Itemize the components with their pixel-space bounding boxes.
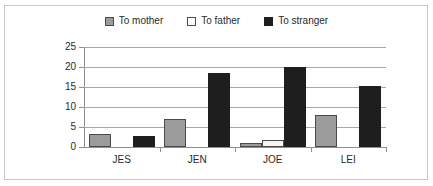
chart-screenshot: To mother To father To stranger 05101520… (0, 0, 433, 186)
bar-joe-to-father (262, 140, 284, 147)
y-tick-label-text: 10 (54, 102, 76, 112)
plot-wrapper: 0510152025 JESJENJOELEI (0, 0, 433, 186)
y-tick-label: 15 (54, 82, 76, 92)
bar-group-bars (160, 47, 236, 147)
x-tick-label-joe: JOE (235, 154, 311, 165)
y-tick-label-text: 25 (54, 42, 76, 52)
bar-jen-to-stranger (208, 73, 230, 147)
y-tick-label-text: 20 (54, 62, 76, 72)
x-tick-mark (160, 147, 161, 152)
bar-group-bars (235, 47, 311, 147)
bar-jen-to-mother (164, 119, 186, 147)
y-tick-label-text: 15 (54, 82, 76, 92)
bar-group-jes (84, 47, 160, 147)
y-tick-label: 10 (54, 102, 76, 112)
x-tick-label-lei: LEI (311, 154, 387, 165)
x-tick-mark (311, 147, 312, 152)
bar-group-bars (84, 47, 160, 147)
bar-group-joe (235, 47, 311, 147)
bar-lei-to-mother (315, 115, 337, 147)
y-tick-label: 5 (54, 122, 76, 132)
bar-group-bars (311, 47, 387, 147)
bar-group-jen (160, 47, 236, 147)
plot-area (84, 47, 386, 147)
bar-jes-to-mother (89, 134, 111, 147)
y-tick-label-text: 0 (54, 142, 76, 152)
bar-lei-to-stranger (359, 86, 381, 147)
x-tick-mark (386, 147, 387, 152)
bar-group-lei (311, 47, 387, 147)
y-tick-label: 20 (54, 62, 76, 72)
y-tick-label: 25 (54, 42, 76, 52)
x-tick-label-jes: JES (84, 154, 160, 165)
bar-jes-to-stranger (133, 136, 155, 147)
y-tick-label-text: 5 (54, 122, 76, 132)
x-tick-mark (235, 147, 236, 152)
x-tick-label-jen: JEN (160, 154, 236, 165)
bar-joe-to-mother (240, 143, 262, 147)
bar-joe-to-stranger (284, 67, 306, 147)
y-tick-label: 0 (54, 142, 76, 152)
